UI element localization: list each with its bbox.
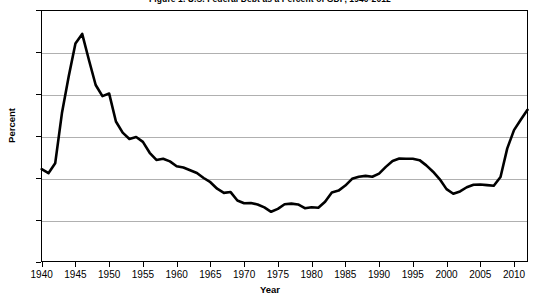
xtick-mark-1970 bbox=[244, 262, 245, 267]
xtick-mark-1975 bbox=[278, 262, 279, 267]
ytick-mark-0 bbox=[36, 262, 41, 263]
gridline-100 bbox=[42, 53, 527, 54]
xtick-mark-1990 bbox=[379, 262, 380, 267]
xtick-mark-2010 bbox=[514, 262, 515, 267]
xtick-mark-1955 bbox=[143, 262, 144, 267]
gridline-80 bbox=[42, 95, 527, 96]
xtick-mark-1940 bbox=[42, 262, 43, 267]
xtick-mark-1995 bbox=[413, 262, 414, 267]
ytick-mark-20 bbox=[36, 220, 41, 221]
xtick-label-2010: 2010 bbox=[494, 269, 534, 280]
xtick-mark-1965 bbox=[210, 262, 211, 267]
ytick-mark-100 bbox=[36, 52, 41, 53]
ytick-mark-40 bbox=[36, 178, 41, 179]
ytick-mark-80 bbox=[36, 94, 41, 95]
ytick-mark-120 bbox=[36, 10, 41, 11]
xtick-mark-1980 bbox=[312, 262, 313, 267]
xtick-mark-1945 bbox=[75, 262, 76, 267]
chart-title: Figure 1. U.S. Federal Debt as a Percent… bbox=[0, 0, 540, 4]
ytick-mark-60 bbox=[36, 136, 41, 137]
y-axis-title: Percent bbox=[6, 96, 17, 156]
xtick-mark-1950 bbox=[109, 262, 110, 267]
gridline-20 bbox=[42, 221, 527, 222]
gridline-60 bbox=[42, 137, 527, 138]
xtick-mark-2000 bbox=[447, 262, 448, 267]
xtick-mark-2005 bbox=[480, 262, 481, 267]
xtick-mark-1960 bbox=[177, 262, 178, 267]
x-axis-title: Year bbox=[0, 284, 540, 295]
xtick-mark-1985 bbox=[345, 262, 346, 267]
plot-area bbox=[41, 10, 528, 262]
chart-figure: Figure 1. U.S. Federal Debt as a Percent… bbox=[0, 0, 540, 300]
gridline-40 bbox=[42, 179, 527, 180]
